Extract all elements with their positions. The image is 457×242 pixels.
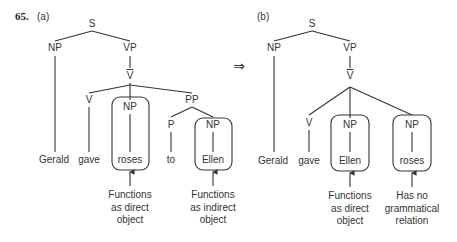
node-s: S — [309, 19, 316, 29]
leaf-gave: gave — [78, 155, 100, 165]
node-np-pp: NP — [206, 120, 220, 130]
leaf-gave: gave — [298, 156, 320, 166]
transformation-arrow-icon: ⇒ — [233, 58, 245, 74]
node-v-bar: V — [347, 71, 354, 81]
node-p: P — [168, 120, 175, 130]
leaf-gerald: Gerald — [39, 155, 69, 165]
node-vp: VP — [123, 43, 136, 53]
node-vp: VP — [343, 43, 356, 53]
node-v-bar: V — [127, 71, 134, 81]
leaf-to: to — [167, 155, 175, 165]
node-np-second: NP — [405, 120, 419, 130]
annotation-direct-object: Functions as direct object — [108, 189, 151, 227]
leaf-gerald: Gerald — [258, 156, 288, 166]
annotation-indirect-object: Functions as indirect object — [190, 189, 236, 227]
tree-a-label: (a) — [37, 11, 49, 22]
node-np-object: NP — [123, 102, 137, 112]
leaf-roses: roses — [400, 156, 424, 166]
annotation-direct-object: Functions as direct object — [328, 190, 371, 228]
node-v: V — [86, 95, 93, 105]
leaf-ellen: Ellen — [202, 155, 224, 165]
tree-b-label: (b) — [257, 11, 269, 22]
node-np-subject: NP — [48, 43, 62, 53]
example-number: 65. — [15, 10, 29, 22]
node-np-first: NP — [343, 120, 357, 130]
node-np-subject: NP — [267, 43, 281, 53]
leaf-roses: roses — [118, 155, 142, 165]
annotation-no-relation: Has no grammatical relation — [385, 190, 439, 228]
node-pp: PP — [185, 95, 198, 105]
node-v: V — [306, 118, 313, 128]
node-s: S — [89, 19, 96, 29]
leaf-ellen: Ellen — [339, 156, 361, 166]
